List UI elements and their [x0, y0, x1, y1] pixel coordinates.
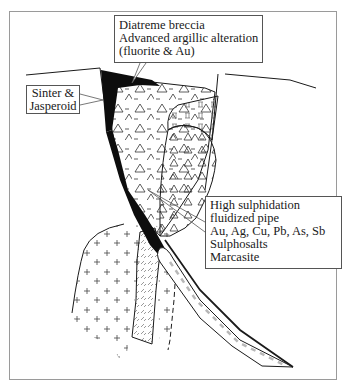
label-sinter-line-2: Jasperoid — [29, 100, 77, 113]
label-sinter-jasperoid: Sinter & Jasperoid — [26, 85, 80, 114]
label-fluidized-pipe: High sulphidation fluidized pipe Au, Ag,… — [205, 196, 342, 269]
label-pipe-line-5: Marcasite — [210, 251, 337, 264]
label-diatreme-breccia: Diatreme breccia Advanced argillic alter… — [114, 15, 263, 63]
label-diatreme-line-3: (fluorite & Au) — [119, 45, 258, 58]
leader-sinter — [80, 94, 103, 105]
ground-surface-right — [225, 74, 316, 88]
intrusion-body — [72, 224, 145, 360]
